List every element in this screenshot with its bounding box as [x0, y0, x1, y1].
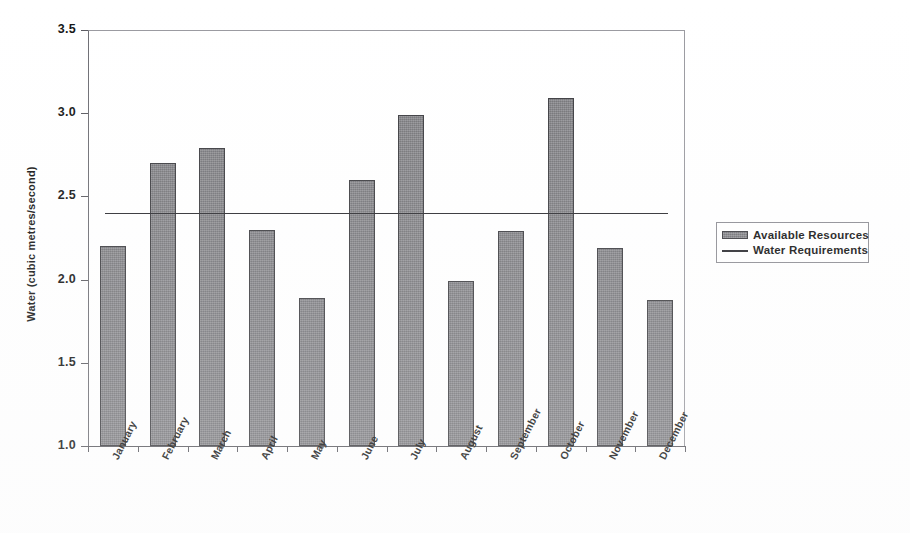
bar [199, 148, 225, 446]
x-axis-tick-mark [88, 446, 89, 452]
line-swatch-icon [722, 246, 748, 254]
bar [249, 230, 275, 446]
bar [349, 180, 375, 446]
x-axis-tick-mark [635, 446, 636, 452]
y-axis-tick-label: 2.0 [30, 272, 76, 286]
legend-item-water-requirements: Water Requirements [722, 242, 863, 257]
legend-label-available-resources: Available Resources [753, 229, 869, 241]
x-axis-tick-mark [237, 446, 238, 452]
x-axis-tick-mark [138, 446, 139, 452]
bar [597, 248, 623, 446]
y-axis-tick-label: 1.0 [30, 438, 76, 452]
legend-label-water-requirements: Water Requirements [753, 244, 868, 256]
bar [398, 115, 424, 446]
x-axis-tick-mark [685, 446, 686, 452]
x-axis-tick-mark [287, 446, 288, 452]
y-axis-tick-label: 2.5 [30, 188, 76, 202]
x-axis-tick-mark [387, 446, 388, 452]
bar-swatch-icon [722, 231, 748, 239]
bar [647, 300, 673, 446]
x-axis-tick-mark [337, 446, 338, 452]
plot-area [88, 30, 685, 446]
bar [299, 298, 325, 446]
bar [448, 281, 474, 446]
bar [100, 246, 126, 446]
x-axis-tick-mark [486, 446, 487, 452]
x-axis-tick-mark [436, 446, 437, 452]
x-axis-tick-mark [188, 446, 189, 452]
y-axis-tick-label: 3.5 [30, 22, 76, 36]
legend: Available Resources Water Requirements [716, 222, 869, 263]
bar [548, 98, 574, 446]
bar [498, 231, 524, 446]
y-axis-tick-label: 1.5 [30, 355, 76, 369]
bar [150, 163, 176, 446]
water-requirements-line [105, 213, 668, 214]
x-axis-tick-mark [536, 446, 537, 452]
legend-item-available-resources: Available Resources [722, 227, 863, 242]
y-axis-tick-label: 3.0 [30, 105, 76, 119]
x-axis-tick-mark [586, 446, 587, 452]
water-resources-bar-chart: Water (cubic metres/second) 1.01.52.02.5… [0, 0, 910, 533]
y-axis-title: Water (cubic metres/second) [25, 129, 37, 359]
